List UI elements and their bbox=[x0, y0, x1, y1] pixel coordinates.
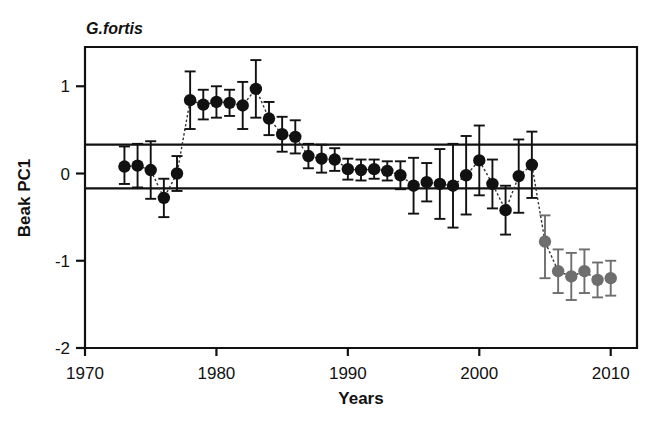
data-point-marker bbox=[355, 164, 367, 176]
data-point-marker bbox=[591, 274, 603, 286]
data-point-marker bbox=[329, 153, 341, 165]
data-point-marker bbox=[145, 164, 157, 176]
data-point-marker bbox=[263, 112, 275, 124]
data-point-marker bbox=[342, 163, 354, 175]
data-point-marker bbox=[421, 176, 433, 188]
data-point-marker bbox=[381, 165, 393, 177]
data-point-marker bbox=[210, 96, 222, 108]
data-point-marker bbox=[302, 150, 314, 162]
data-point-marker bbox=[158, 192, 170, 204]
y-tick-label: -1 bbox=[55, 252, 70, 271]
data-point-marker bbox=[447, 180, 459, 192]
data-point-marker bbox=[237, 99, 249, 111]
data-point-marker bbox=[394, 169, 406, 181]
data-point-marker bbox=[486, 178, 498, 190]
data-point-marker bbox=[276, 128, 288, 140]
x-axis-title: Years bbox=[338, 389, 383, 408]
x-tick-label: 1970 bbox=[66, 364, 104, 383]
data-point-marker bbox=[473, 154, 485, 166]
data-point-marker bbox=[315, 152, 327, 164]
data-point-marker bbox=[407, 180, 419, 192]
data-point-marker bbox=[118, 160, 130, 172]
y-tick-label: -2 bbox=[55, 339, 70, 358]
x-tick-label: 2000 bbox=[460, 364, 498, 383]
data-point-marker bbox=[289, 131, 301, 143]
data-point-marker bbox=[131, 159, 143, 171]
data-point-marker bbox=[250, 83, 262, 95]
data-point-marker bbox=[434, 178, 446, 190]
y-axis-title: Beak PC1 bbox=[15, 159, 34, 237]
data-point-marker bbox=[499, 204, 511, 216]
data-point-marker bbox=[513, 170, 525, 182]
beak-pc1-chart: G.fortis 19701980199020002010 10-1-2 Yea… bbox=[0, 0, 657, 428]
data-point-marker bbox=[578, 265, 590, 277]
data-point-marker bbox=[171, 167, 183, 179]
data-point-marker bbox=[526, 159, 538, 171]
y-tick-label: 0 bbox=[61, 165, 70, 184]
data-point-marker bbox=[368, 163, 380, 175]
data-point-marker bbox=[605, 272, 617, 284]
x-tick-label: 1990 bbox=[329, 364, 367, 383]
data-point-marker bbox=[223, 97, 235, 109]
data-point-marker bbox=[552, 265, 564, 277]
data-point-marker bbox=[565, 270, 577, 282]
data-point-marker bbox=[197, 98, 209, 110]
chart-title: G.fortis bbox=[86, 20, 143, 37]
x-tick-label: 1980 bbox=[198, 364, 236, 383]
x-tick-label: 2010 bbox=[592, 364, 630, 383]
y-tick-label: 1 bbox=[61, 77, 70, 96]
data-point-marker bbox=[539, 235, 551, 247]
data-point-marker bbox=[460, 169, 472, 181]
data-point-marker bbox=[184, 94, 196, 106]
